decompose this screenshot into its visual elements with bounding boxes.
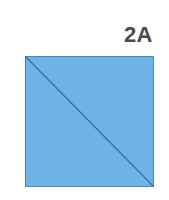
- figure-canvas: 2A: [0, 0, 169, 200]
- figure-label: 2A: [124, 24, 153, 46]
- square-diagonal-graphic: [25, 56, 154, 187]
- blue-square: [25, 56, 154, 187]
